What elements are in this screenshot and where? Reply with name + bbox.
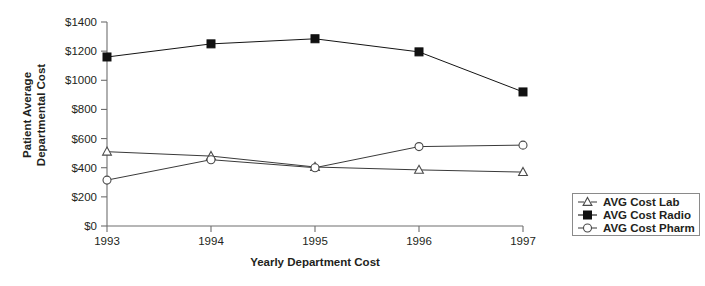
x-tick-label: 1995 bbox=[302, 235, 328, 247]
x-tick-label: 1993 bbox=[94, 235, 120, 247]
y-tick-label: $1000 bbox=[65, 74, 97, 86]
legend-item-label: AVG Cost Lab bbox=[603, 196, 679, 208]
data-point-avg-cost-lab-1997 bbox=[519, 167, 528, 175]
data-point-avg-cost-radio-1995 bbox=[311, 35, 319, 43]
legend-item-label: AVG Cost Radio bbox=[603, 209, 691, 221]
x-axis-ticks: 19931994199519961997 bbox=[94, 226, 536, 247]
y-axis-ticks: $0$200$400$600$800$1000$1200$1400 bbox=[65, 16, 107, 232]
data-point-avg-cost-radio-1996 bbox=[415, 48, 423, 56]
y-tick-label: $1200 bbox=[65, 45, 97, 57]
y-axis-title: Patient Average Departmental Cost bbox=[21, 64, 47, 166]
series-line-avg-cost-radio bbox=[107, 39, 523, 92]
y-tick-label: $800 bbox=[71, 103, 97, 115]
series-markers bbox=[103, 35, 528, 184]
y-axis-title-line2: Departmental Cost bbox=[35, 64, 47, 166]
series-lines bbox=[107, 39, 523, 180]
y-tick-label: $1400 bbox=[65, 16, 97, 28]
data-point-avg-cost-radio-1997 bbox=[519, 88, 527, 96]
x-tick-label: 1994 bbox=[198, 235, 224, 247]
data-point-avg-cost-pharm-1995 bbox=[311, 164, 319, 172]
data-point-avg-cost-radio-1993 bbox=[103, 53, 111, 61]
x-tick-label: 1997 bbox=[510, 235, 536, 247]
y-tick-label: $200 bbox=[71, 191, 97, 203]
legend-marker-open-circle bbox=[584, 224, 592, 232]
y-axis-title-line1: Patient Average bbox=[21, 72, 33, 158]
data-point-avg-cost-lab-1993 bbox=[103, 147, 112, 155]
x-tick-label: 1996 bbox=[406, 235, 432, 247]
data-point-avg-cost-lab-1996 bbox=[415, 165, 424, 173]
legend-marker-filled-square bbox=[584, 211, 592, 219]
legend-item-label: AVG Cost Pharm bbox=[603, 222, 695, 234]
legend: AVG Cost LabAVG Cost RadioAVG Cost Pharm bbox=[573, 194, 700, 236]
data-point-avg-cost-pharm-1993 bbox=[103, 176, 111, 184]
line-chart: Patient Average Departmental Cost $0$200… bbox=[0, 0, 705, 286]
y-tick-label: $400 bbox=[71, 162, 97, 174]
y-tick-label: $0 bbox=[84, 220, 97, 232]
data-point-avg-cost-pharm-1996 bbox=[415, 143, 423, 151]
data-point-avg-cost-radio-1994 bbox=[207, 40, 215, 48]
y-tick-label: $600 bbox=[71, 133, 97, 145]
chart-canvas: Patient Average Departmental Cost $0$200… bbox=[0, 0, 705, 286]
x-axis-title: Yearly Department Cost bbox=[250, 256, 380, 268]
data-point-avg-cost-pharm-1994 bbox=[207, 156, 215, 164]
data-point-avg-cost-pharm-1997 bbox=[519, 141, 527, 149]
